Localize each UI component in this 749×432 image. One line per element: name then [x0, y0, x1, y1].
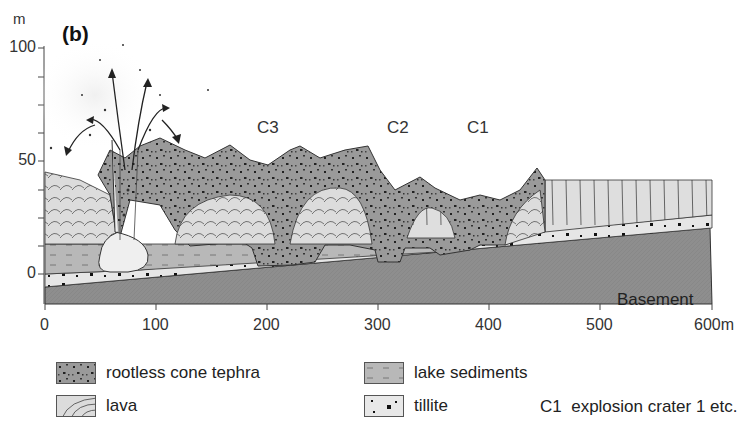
panel-label: (b) — [62, 22, 89, 46]
legend-item-lava: lava — [56, 395, 137, 417]
x-tick-200: 200 — [253, 316, 280, 334]
y-tick-100: 100 — [0, 38, 36, 56]
crater-label-c2: C2 — [387, 118, 409, 138]
legend-label: lake sediments — [414, 363, 527, 383]
legend-item-tillite: tillite — [364, 395, 448, 417]
x-axis — [45, 304, 712, 310]
x-tick-100: 100 — [142, 316, 169, 334]
tillite-swatch — [364, 395, 404, 417]
legend-item-tephra: rootless cone tephra — [56, 362, 260, 384]
crater-label-c1: C1 — [467, 118, 489, 138]
legend-label: rootless cone tephra — [106, 363, 260, 383]
tephra-swatch — [56, 362, 96, 384]
basement-label: Basement — [617, 290, 694, 310]
legend-item-lake-sediments: lake sediments — [364, 362, 527, 384]
x-tick-400: 400 — [475, 316, 502, 334]
lava-swatch — [56, 395, 96, 417]
legend-label: lava — [106, 396, 137, 416]
y-axis-unit: m — [13, 10, 26, 27]
legend-note: C1 explosion crater 1 etc. — [540, 397, 737, 417]
y-tick-50: 50 — [0, 151, 36, 169]
x-tick-500: 500 — [586, 316, 613, 334]
x-tick-300: 300 — [364, 316, 391, 334]
crater-label-c3: C3 — [257, 118, 279, 138]
legend-label: tillite — [414, 396, 448, 416]
y-tick-0: 0 — [0, 264, 36, 282]
lake-sediments-swatch — [364, 362, 404, 384]
x-tick-0: 0 — [40, 316, 49, 334]
x-tick-600: 600m — [694, 316, 734, 334]
